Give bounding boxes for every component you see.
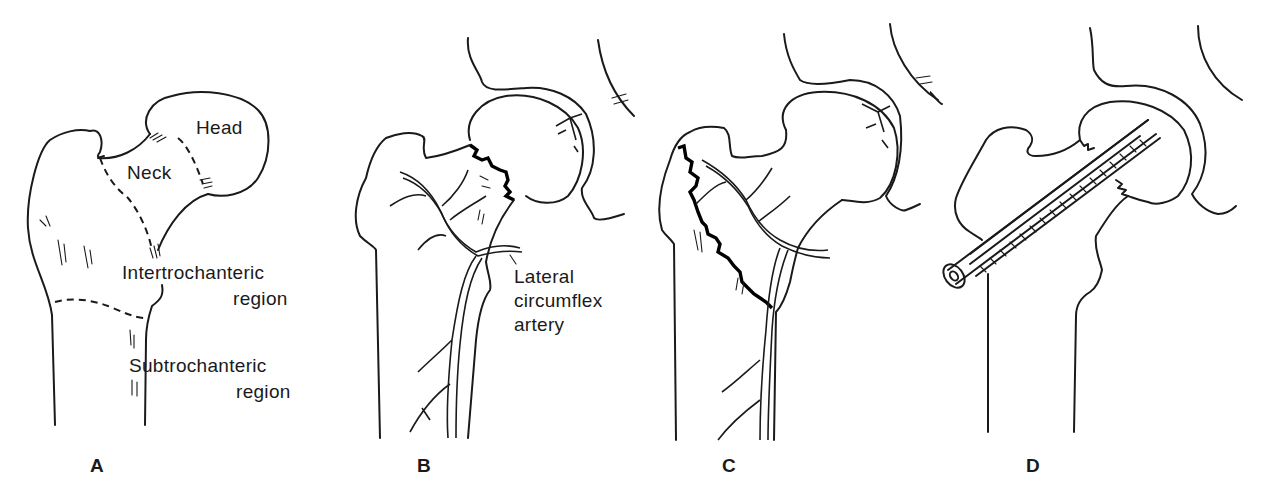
label-subtrochanteric-1: Subtrochanteric xyxy=(129,355,267,377)
compression-nail xyxy=(939,120,1160,292)
label-lateral: Lateral xyxy=(514,266,574,288)
label-circumflex: circumflex xyxy=(514,290,603,312)
label-artery: artery xyxy=(514,314,564,336)
neck-fracture-drawing xyxy=(330,0,640,498)
femur-regions-drawing xyxy=(0,0,330,498)
label-intertrochanteric-2: region xyxy=(233,288,288,310)
label-head: Head xyxy=(196,117,243,139)
fixation-nail-drawing xyxy=(930,0,1268,498)
panel-d: D xyxy=(930,0,1268,498)
panel-label-c: C xyxy=(722,455,736,477)
panel-label-a: A xyxy=(90,455,104,477)
panel-label-d: D xyxy=(1026,455,1040,477)
label-neck: Neck xyxy=(127,162,172,184)
panel-label-b: B xyxy=(417,455,431,477)
label-intertrochanteric-1: Intertrochanteric xyxy=(122,262,264,284)
panel-a: Head Neck Intertrochanteric region Subtr… xyxy=(0,0,330,498)
label-subtrochanteric-2: region xyxy=(236,381,291,403)
panel-c: C xyxy=(640,0,940,498)
intertrochanteric-fracture-drawing xyxy=(640,0,940,498)
panel-b: Lateral circumflex artery B xyxy=(330,0,640,498)
